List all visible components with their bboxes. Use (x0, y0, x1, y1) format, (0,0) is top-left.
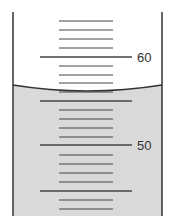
label-50: 50 (137, 139, 151, 152)
label-60: 60 (137, 51, 151, 64)
graduated-cylinder (0, 0, 173, 224)
